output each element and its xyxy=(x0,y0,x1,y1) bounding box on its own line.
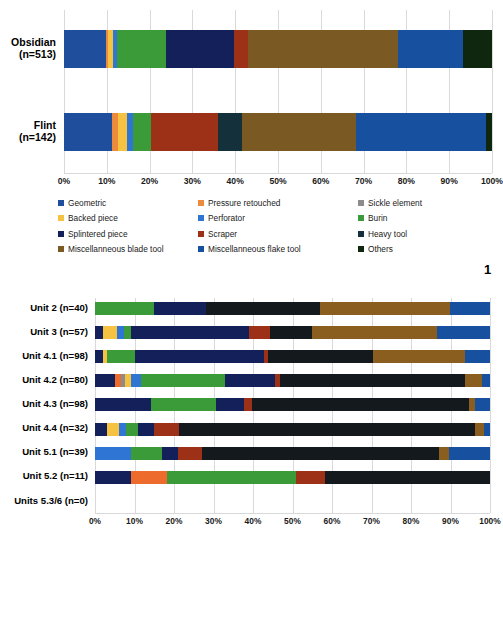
bar-segment xyxy=(486,113,492,151)
stacked-bar xyxy=(64,113,492,151)
bar-segment xyxy=(135,350,264,363)
category-label: Unit 5.2 (n=11) xyxy=(0,471,88,482)
x-axis-tick-label: 80% xyxy=(389,516,433,526)
legend-swatch-icon xyxy=(58,231,64,237)
x-axis-tick-label: 30% xyxy=(192,516,236,526)
legend-item[interactable]: Pressure retouched xyxy=(198,199,358,207)
bar-segment xyxy=(64,113,112,151)
legend-label: Splintered piece xyxy=(68,230,128,238)
bar-segment xyxy=(95,302,154,315)
legend-item[interactable]: Miscellanneous flake tool xyxy=(198,245,358,253)
legend-item[interactable]: Sickle element xyxy=(358,199,422,207)
legend-1: GeometricPressure retouchedSickle elemen… xyxy=(58,199,422,253)
category-label: Units 5.3/6 (n=0) xyxy=(0,496,88,507)
legend-swatch-icon xyxy=(58,200,64,206)
x-axis-tick-label: 50% xyxy=(256,176,300,186)
bar-segment xyxy=(244,398,252,411)
bar-segment xyxy=(482,374,490,387)
bar-segment xyxy=(124,326,131,339)
legend-label: Perforator xyxy=(208,214,245,222)
category-label: Unit 4.1 (n=98) xyxy=(0,351,88,362)
category-label: Unit 3 (n=57) xyxy=(0,327,88,338)
bar-segment xyxy=(151,113,217,151)
legend-label: Geometric xyxy=(68,199,106,207)
figure-2-units-chart: 0%10%20%30%40%50%60%70%80%90%100%Unit 2 … xyxy=(0,290,503,621)
bar-segment xyxy=(179,423,475,436)
bar-segment xyxy=(107,423,119,436)
bar-segment xyxy=(117,326,124,339)
bar-segment xyxy=(465,374,482,387)
x-axis-tick-label: 40% xyxy=(231,516,275,526)
legend-item[interactable]: Perforator xyxy=(198,214,358,222)
category-label: Flint (n=142) xyxy=(0,120,56,144)
gridline xyxy=(490,298,491,513)
bar-segment xyxy=(249,326,270,339)
bar-segment xyxy=(107,350,135,363)
x-axis-tick-label: 10% xyxy=(113,516,157,526)
bar-segment xyxy=(234,30,248,68)
legend-swatch-icon xyxy=(358,246,364,252)
bar-segment xyxy=(138,423,154,436)
legend-swatch-icon xyxy=(198,231,204,237)
legend-label: Miscellanneous flake tool xyxy=(208,245,301,253)
bar-segment xyxy=(95,350,103,363)
bar-segment xyxy=(437,326,490,339)
bar-segment xyxy=(206,302,321,315)
bar-segment xyxy=(117,30,166,68)
x-axis-tick-label: 90% xyxy=(427,176,471,186)
legend-label: Scraper xyxy=(208,230,237,238)
bar-segment xyxy=(131,326,250,339)
legend-label: Heavy tool xyxy=(368,230,407,238)
legend-label: Pressure retouched xyxy=(208,199,280,207)
legend-item[interactable]: Geometric xyxy=(58,199,198,207)
legend-swatch-icon xyxy=(358,231,364,237)
bar-segment xyxy=(398,30,463,68)
x-axis-tick-label: 100% xyxy=(470,176,503,186)
legend-swatch-icon xyxy=(198,246,204,252)
legend-item[interactable]: Splintered piece xyxy=(58,230,198,238)
legend-swatch-icon xyxy=(198,215,204,221)
legend-item[interactable]: Others xyxy=(358,245,422,253)
bar-segment xyxy=(225,374,274,387)
x-axis-tick-label: 70% xyxy=(342,176,386,186)
legend-swatch-icon xyxy=(358,200,364,206)
bar-segment xyxy=(118,113,127,151)
legend-label: Others xyxy=(368,245,393,253)
stacked-bar xyxy=(95,495,490,508)
category-label: Unit 4.4 (n=32) xyxy=(0,423,88,434)
bar-segment xyxy=(154,423,179,436)
stacked-bar xyxy=(95,471,490,484)
bar-segment xyxy=(133,113,151,151)
x-axis-tick-label: 20% xyxy=(128,176,172,186)
bar-segment xyxy=(154,302,205,315)
stacked-bar xyxy=(95,302,490,315)
bar-segment xyxy=(296,471,325,484)
legend-item[interactable]: Scraper xyxy=(198,230,358,238)
legend-swatch-icon xyxy=(58,215,64,221)
bar-segment xyxy=(202,447,439,460)
bar-segment xyxy=(162,447,178,460)
bar-segment xyxy=(248,30,398,68)
figure-1-obsidian-flint-chart: 0%10%20%30%40%50%60%70%80%90%100%Obsidia… xyxy=(0,0,503,290)
bar-segment xyxy=(166,30,234,68)
stacked-bar xyxy=(95,350,490,363)
x-axis-tick-label: 50% xyxy=(271,516,315,526)
bar-segment xyxy=(449,447,490,460)
x-axis-tick-label: 10% xyxy=(85,176,129,186)
legend-item[interactable]: Heavy tool xyxy=(358,230,422,238)
stacked-bar xyxy=(64,30,492,68)
bar-segment xyxy=(178,447,202,460)
bar-segment xyxy=(216,398,244,411)
legend-swatch-icon xyxy=(358,215,364,221)
x-axis-line xyxy=(95,513,490,514)
legend-swatch-icon xyxy=(58,246,64,252)
legend-label: Burin xyxy=(368,214,387,222)
gridline xyxy=(492,10,493,173)
bar-segment xyxy=(64,30,106,68)
legend-item[interactable]: Miscellanneous blade tool xyxy=(58,245,198,253)
legend-item[interactable]: Backed piece xyxy=(58,214,198,222)
bar-segment xyxy=(95,471,131,484)
legend-item[interactable]: Burin xyxy=(358,214,422,222)
x-axis-tick-label: 60% xyxy=(310,516,354,526)
bar-segment xyxy=(463,30,492,68)
